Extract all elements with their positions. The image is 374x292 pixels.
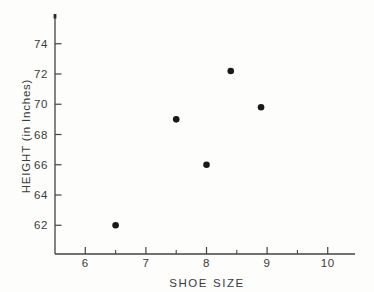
x-tick-label: 6 [82,257,89,269]
y-tick-label: 64 [34,189,48,201]
data-point [258,104,265,111]
x-tick-label: 9 [264,257,271,269]
scatter-chart: 74727068666462678910 [0,0,374,292]
x-axis-title: SHOE SIZE [169,277,245,289]
y-tick-label: 68 [34,129,48,141]
x-tick-label: 10 [321,257,335,269]
data-point [227,68,234,75]
y-axis-title: HEIGHT (in Inches) [20,79,32,194]
data-point [112,222,119,229]
data-point [173,116,180,123]
x-tick-label: 8 [203,257,210,269]
y-tick-label: 74 [34,38,48,50]
y-tick-label: 62 [34,219,48,231]
x-tick-label: 7 [142,257,149,269]
scatter-plot-figure: 74727068666462678910 SHOE SIZE HEIGHT (i… [0,0,374,292]
y-tick-label: 66 [34,159,48,171]
y-tick-label: 70 [34,98,48,110]
y-axis-top-cap [54,14,57,19]
y-tick-label: 72 [34,68,48,80]
data-point [203,161,210,168]
